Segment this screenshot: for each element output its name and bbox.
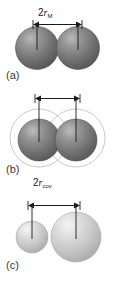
dim-subscript-a: M [47,13,52,19]
atomic-radii-figure: 2rM (a) [0,0,116,281]
panel-b: 2rcov (b) [0,88,116,184]
panel-label-c: (c) [6,260,19,271]
dimension-label-metallic: 2rM [38,8,52,18]
panel-label-a: (a) [6,70,19,81]
dimension-arrow-sum [28,201,80,210]
panel-a: 2rM (a) [0,0,116,88]
panel-c: rA+rB (c) [0,184,116,281]
dimension-arrow-covalent [35,94,80,103]
panel-label-b: (b) [6,164,19,175]
